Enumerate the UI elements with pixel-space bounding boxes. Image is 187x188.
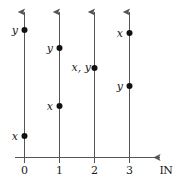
data-point: [127, 30, 133, 36]
x-tick-label-0: 0: [21, 165, 28, 176]
sequence-diagram: y x y x x, y x y 0 1 2 3 IN: [0, 0, 187, 188]
diagram-canvas: [0, 0, 187, 188]
x-tick-label-3: 3: [126, 165, 133, 176]
point-label-c0-y: y: [12, 25, 21, 36]
data-point: [57, 45, 63, 51]
data-point: [127, 83, 133, 89]
x-axis-label-naturals: IN: [160, 165, 173, 176]
point-label-c3-x: x: [117, 28, 126, 39]
x-tick-label-1: 1: [56, 165, 63, 176]
data-point: [22, 27, 28, 33]
point-label-c1-x: x: [47, 101, 56, 112]
data-point: [57, 103, 63, 109]
x-tick-label-2: 2: [91, 165, 98, 176]
point-label-c3-y: y: [117, 81, 126, 92]
point-label-c0-x: x: [12, 131, 21, 142]
data-point: [22, 133, 28, 139]
point-label-c1-y: y: [47, 43, 56, 54]
point-label-c2-xy: x, y: [72, 62, 94, 73]
